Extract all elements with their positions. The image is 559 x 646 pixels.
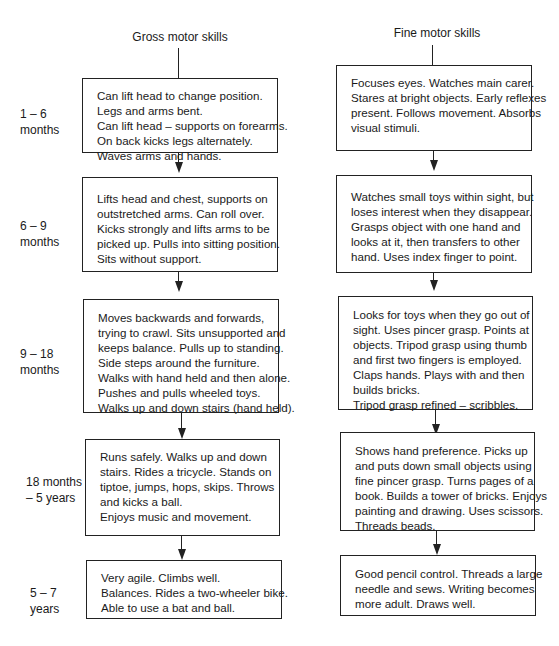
skill-line: fine pincer grasp. Turns pages of a [355,473,526,488]
skill-line: stairs. Rides a tricycle. Stands on [100,464,271,479]
skill-line: Waves arms and hands. [97,148,269,163]
fine-title-connector [432,45,433,65]
skill-line: tiptoe, jumps, hops, skips. Throws [100,479,271,494]
skill-line: and puts down small objects using [355,458,526,473]
gross-title-connector [178,48,179,78]
skill-line: Looks for toys when they go out of [353,307,524,322]
age-label-line: months [20,122,80,138]
age-label-line: 6 – 9 [20,218,80,234]
skill-line: present. Follows movement. Absorbs [351,105,523,120]
down-arrow-icon [178,428,186,439]
down-arrow-icon [175,281,183,292]
fine-box-18-months-5-years: Shows hand preference. Picks up and puts… [340,432,535,531]
skill-line: objects. Tripod grasp using thumb [353,337,524,352]
skill-line: book. Builds a tower of bricks. Enjoys [355,488,526,503]
skill-line: loses interest when they disappear. [351,204,523,219]
age-label-line: 1 – 6 [20,106,80,122]
fine-box-6-9-months: Watches small toys within sight, but los… [336,175,532,273]
skill-line: Shows hand preference. Picks up [355,443,526,458]
skill-line: Runs safely. Walks up and down [100,449,271,464]
skill-line: On back kicks legs alternately. [97,133,269,148]
age-label-2: 6 – 9 months [20,218,80,250]
skill-line: builds bricks. [353,382,524,397]
skill-line: Able to use a bat and ball. [101,600,273,615]
fine-motor-title: Fine motor skills [377,26,497,40]
age-label-4: 18 months – 5 years [26,474,86,506]
fine-box-1-6-months: Focuses eyes. Watches main carer. Stares… [336,65,532,151]
skill-line: and first two fingers is employed. [353,352,524,367]
age-label-line: years [30,601,90,617]
down-arrow-icon [175,162,183,173]
skill-line: Threads beads. [355,518,526,533]
down-arrow-icon [178,549,186,560]
skill-line: Claps hands. Plays with and then [353,367,524,382]
fine-box-5-7-years: Good pencil control. Threads a large nee… [340,555,536,616]
skill-line: Legs and arms bent. [97,103,269,118]
skill-line: Walks up and down stairs (hand held). [98,400,270,415]
skill-line: Watches small toys within sight, but [351,189,523,204]
skill-line: Can lift head – supports on forearms. [97,118,269,133]
skill-line: hand. Uses index finger to point. [351,249,523,264]
age-label-line: 9 – 18 [20,346,80,362]
skill-line: looks at it, then transfers to other [351,234,523,249]
skill-line: painting and drawing. Uses scissors. [355,503,526,518]
skill-line: outstretched arms. Can roll over. [97,206,269,221]
skill-line: Sits without support. [97,251,269,266]
skill-line: Lifts head and chest, supports on [97,191,269,206]
skill-line: Tripod grasp refined – scribbles. [353,397,524,412]
age-label-line: 18 months [26,474,86,490]
gross-box-9-18-months: Moves backwards and forwards, trying to … [83,299,279,413]
gross-box-5-7-years: Very agile. Climbs well. Balances. Rides… [86,560,282,619]
gross-box-1-6-months: Can lift head to change position. Legs a… [82,78,278,153]
gross-arrow-shaft-4 [181,536,182,550]
skill-line: Pushes and pulls wheeled toys. [98,385,270,400]
skill-line: Stares at bright objects. Early reflexes [351,90,523,105]
skill-line: and kicks a ball. [100,494,271,509]
skill-line: needle and sews. Writing becomes [355,581,527,596]
skill-line: Can lift head to change position. [97,88,269,103]
age-label-1: 1 – 6 months [20,106,80,138]
skill-line: visual stimuli. [351,120,523,135]
skill-line: Very agile. Climbs well. [101,570,273,585]
skill-line: Focuses eyes. Watches main carer. [351,75,523,90]
gross-motor-title: Gross motor skills [120,30,240,44]
skill-line: Good pencil control. Threads a large [355,566,527,581]
down-arrow-icon [430,280,438,291]
skill-line: Grasps object with one hand and [351,219,523,234]
skill-line: Side steps around the furniture. [98,355,270,370]
skill-line: Kicks strongly and lifts arms to be [97,221,269,236]
skill-line: keeps balance. Pulls up to standing. [98,340,270,355]
age-label-line: months [20,362,80,378]
age-label-3: 9 – 18 months [20,346,80,378]
skill-line: trying to crawl. Sits unsupported and [98,325,270,340]
skill-line: Balances. Rides a two-wheeler bike. [101,585,273,600]
skill-line: Moves backwards and forwards, [98,310,270,325]
skill-line: sight. Uses pincer grasp. Points at [353,322,524,337]
skill-line: picked up. Pulls into sitting position. [97,236,269,251]
down-arrow-icon [430,160,438,171]
skill-line: Enjoys music and movement. [100,509,271,524]
age-label-line: – 5 years [26,490,86,506]
fine-box-9-18-months: Looks for toys when they go out of sight… [338,296,533,410]
gross-box-6-9-months: Lifts head and chest, supports on outstr… [82,177,278,272]
age-label-5: 5 – 7 years [30,585,90,617]
gross-box-18-months-5-years: Runs safely. Walks up and down stairs. R… [85,439,280,536]
age-label-line: 5 – 7 [30,585,90,601]
skill-line: more adult. Draws well. [355,596,527,611]
down-arrow-icon [433,544,441,555]
fine-arrow-shaft-4 [436,531,437,545]
age-label-line: months [20,234,80,250]
skill-line: Walks with hand held and then alone. [98,370,270,385]
